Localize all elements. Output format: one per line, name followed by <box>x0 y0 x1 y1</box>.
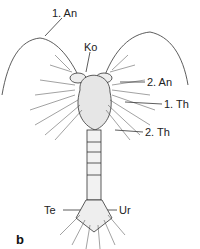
label-first-thorax: 1. Th <box>164 99 189 110</box>
label-head: Ko <box>84 42 97 53</box>
label-uropod: Ur <box>119 205 131 216</box>
label-second-antenna: 2. An <box>147 77 172 88</box>
label-second-thorax: 2. Th <box>145 127 170 138</box>
panel-label: b <box>16 232 24 247</box>
label-telson: Te <box>44 205 56 216</box>
crustacean-larva-drawing <box>0 0 200 249</box>
label-first-antenna: 1. An <box>52 8 77 19</box>
